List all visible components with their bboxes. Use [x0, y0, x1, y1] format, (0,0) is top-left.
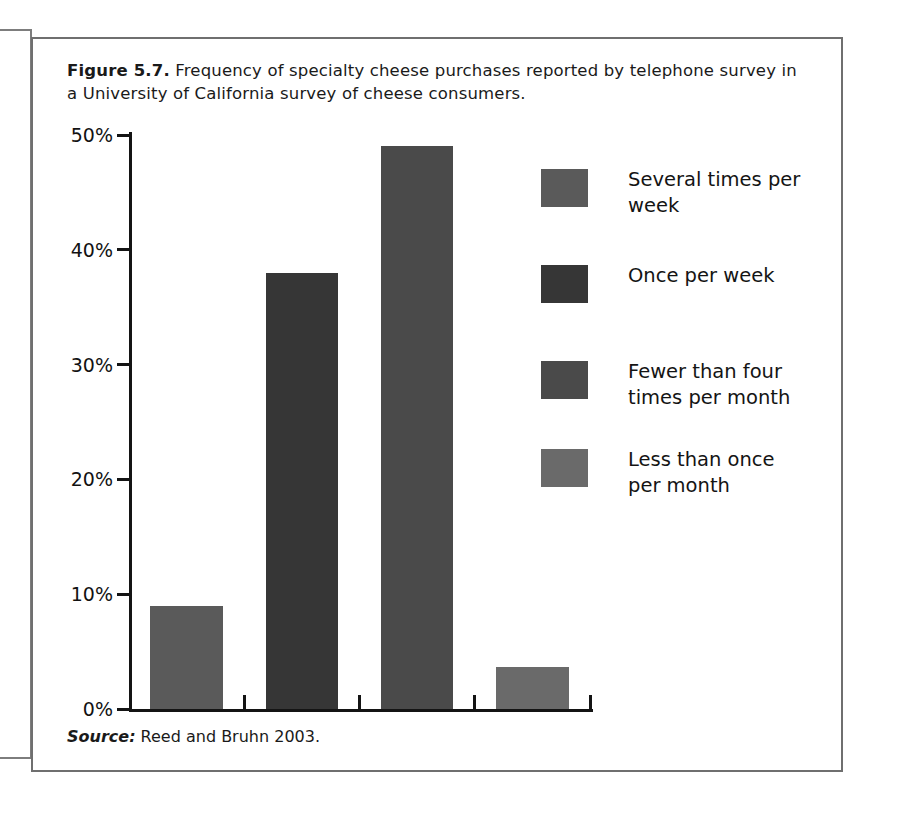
y-axis-tick [117, 248, 129, 251]
legend-label: Fewer than four times per month [628, 359, 790, 411]
legend-label: Once per week [628, 263, 774, 289]
x-axis-tick [589, 695, 592, 712]
bar [150, 606, 223, 709]
source-note: Source: Reed and Bruhn 2003. [67, 727, 320, 746]
bar [381, 146, 454, 709]
y-axis-tick [117, 593, 129, 596]
legend-label: Less than once per month [628, 447, 775, 499]
x-axis-line [129, 709, 593, 712]
plot-area: 0%10%20%30%40%50% [129, 135, 590, 709]
y-axis-tick-label: 20% [43, 468, 113, 490]
source-label: Source: [67, 727, 136, 746]
legend-item: Several times per week [541, 167, 841, 219]
legend-swatch-icon [541, 449, 588, 487]
legend-swatch-icon [541, 361, 588, 399]
figure-frame: Figure 5.7. Frequency of specialty chees… [31, 37, 843, 772]
x-axis-tick [243, 695, 246, 712]
x-axis-tick [358, 695, 361, 712]
y-axis-tick-label: 10% [43, 583, 113, 605]
legend-swatch-icon [541, 169, 588, 207]
legend-label: Several times per week [628, 167, 841, 219]
y-axis-tick-label: 0% [43, 698, 113, 720]
scanned-page: Figure 5.7. Frequency of specialty chees… [0, 0, 901, 824]
y-axis-line [129, 132, 132, 712]
y-axis-tick [117, 363, 129, 366]
y-axis-tick-label: 30% [43, 354, 113, 376]
legend-item: Once per week [541, 263, 774, 303]
y-axis-tick-label: 40% [43, 239, 113, 261]
bar [266, 273, 339, 709]
legend-item: Less than once per month [541, 447, 775, 499]
source-text: Reed and Bruhn 2003. [136, 727, 320, 746]
legend-swatch-icon [541, 265, 588, 303]
x-axis-tick [473, 695, 476, 712]
y-axis-tick [117, 708, 129, 711]
adjacent-column-box [0, 29, 32, 759]
bar [496, 667, 569, 709]
y-axis-tick [117, 478, 129, 481]
y-axis-tick [117, 134, 129, 137]
bar-chart: 0%10%20%30%40%50% Several times per week… [33, 39, 845, 774]
legend-item: Fewer than four times per month [541, 359, 790, 411]
y-axis-tick-label: 50% [43, 124, 113, 146]
